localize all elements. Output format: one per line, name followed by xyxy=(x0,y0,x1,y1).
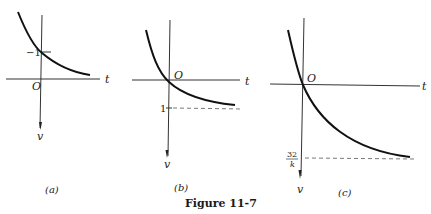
v-axis xyxy=(40,15,42,128)
curve-c xyxy=(288,30,410,157)
asymptote-numerator: 32 xyxy=(287,150,297,159)
t-axis-label: t xyxy=(245,75,250,88)
origin-label: O xyxy=(307,72,316,85)
v-axis-label: v xyxy=(164,158,171,171)
panel-c: 32 k O t v (c) xyxy=(270,18,427,198)
t-axis-label: t xyxy=(105,73,110,86)
panel-label: (a) xyxy=(45,184,59,195)
panel-a: −1 O t v (a) xyxy=(6,12,110,195)
v-axis-arrow-icon xyxy=(39,122,42,130)
v-axis-label: v xyxy=(297,183,304,196)
asymptote-line xyxy=(305,158,415,159)
curve-b xyxy=(146,30,235,105)
tick-label: −1 xyxy=(26,47,41,58)
curve-a xyxy=(18,12,90,75)
asymptote-line xyxy=(173,108,243,109)
panel-label: (b) xyxy=(174,182,188,193)
origin-label: O xyxy=(32,80,41,93)
v-axis xyxy=(301,18,304,176)
asymptote-denominator: k xyxy=(290,160,295,169)
t-axis xyxy=(270,84,420,86)
v-axis-label: v xyxy=(37,130,44,143)
figure-caption: Figure 11-7 xyxy=(185,197,257,210)
origin-label: O xyxy=(174,69,183,82)
panel-b: 1 O t v (b) xyxy=(132,20,250,193)
figure-11-7: −1 O t v (a) 1 O t v (b) 32 k O t v (c) … xyxy=(0,0,431,214)
v-axis xyxy=(168,20,170,156)
panel-label: (c) xyxy=(338,187,352,198)
t-axis-label: t xyxy=(422,80,427,93)
tick-label: 1 xyxy=(160,103,166,114)
